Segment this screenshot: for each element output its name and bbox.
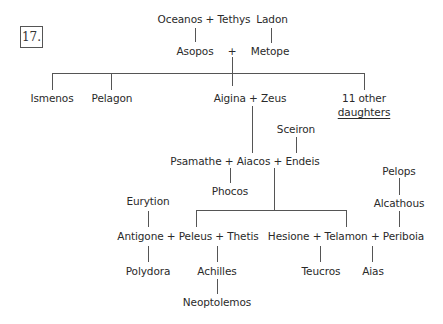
node-aias: Aias: [362, 265, 384, 277]
node-ladon: Ladon: [256, 13, 288, 25]
node-other-daughters: 11 other: [342, 92, 386, 104]
node-oceanos-tethys: Oceanos + Tethys: [158, 13, 251, 25]
node-aigina-zeus: Aigina + Zeus: [214, 92, 287, 104]
node-antigone-peleus-thetis: Antigone + Peleus + Thetis: [117, 230, 258, 242]
node-asopos: Asopos: [176, 45, 213, 57]
node-pelagon: Pelagon: [92, 92, 133, 104]
node-teucros: Teucros: [302, 265, 341, 277]
node-psamathe-aiacos-endeis: Psamathe + Aiacos + Endeis: [170, 155, 319, 167]
node-phocos: Phocos: [212, 185, 248, 197]
node-alcathous: Alcathous: [374, 197, 425, 209]
node-hesione-telamon-periboia: Hesione + Telamon + Periboia: [268, 230, 424, 242]
node-eurytion: Eurytion: [126, 195, 169, 207]
node-ismenos: Ismenos: [30, 92, 73, 104]
union-plus-asopos-metope: +: [228, 45, 237, 57]
node-pelops: Pelops: [382, 165, 415, 177]
node-polydora: Polydora: [126, 265, 171, 277]
node-achilles: Achilles: [197, 265, 236, 277]
node-sceiron: Sceiron: [277, 123, 315, 135]
node-other-daughters-underlined: daughters: [338, 106, 391, 118]
node-neoptolemos: Neoptolemos: [183, 296, 251, 308]
node-metope: Metope: [251, 45, 290, 57]
